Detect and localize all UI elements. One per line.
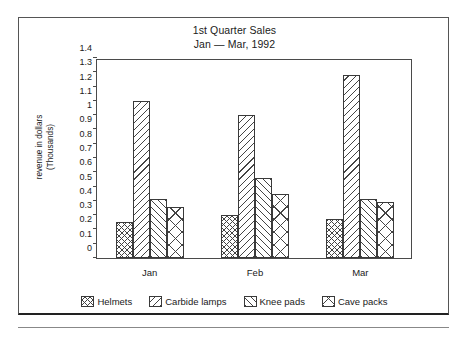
legend-item[interactable]: Carbide lamps xyxy=(149,296,226,307)
y-axis-tick-label: 1.2 xyxy=(52,72,97,82)
bar xyxy=(326,219,343,258)
y-axis-tick-mark xyxy=(93,100,97,101)
legend-item[interactable]: Cave packs xyxy=(322,296,388,307)
legend-label: Helmets xyxy=(97,296,132,307)
y-axis-tick-label: 1 xyxy=(52,100,97,110)
y-axis-tick-label: 0.3 xyxy=(52,200,97,210)
legend-label: Cave packs xyxy=(338,296,388,307)
bar xyxy=(116,222,133,258)
bar xyxy=(133,101,150,258)
y-axis-tick-label: 0.2 xyxy=(52,214,97,224)
legend-swatch-icon xyxy=(244,296,257,307)
y-axis-tick-mark xyxy=(93,86,97,87)
y-axis-tick-label: 0.1 xyxy=(52,229,97,239)
y-axis-title-line1: revenue in dollars xyxy=(34,77,45,217)
y-axis-tick-mark xyxy=(93,71,97,72)
legend-item[interactable]: Knee pads xyxy=(244,296,305,307)
y-axis-tick-label: 0.4 xyxy=(52,186,97,196)
bar xyxy=(343,75,360,258)
y-axis-tick-label: 0.8 xyxy=(52,129,97,139)
y-axis-tick-mark xyxy=(93,186,97,187)
y-axis-tick-mark xyxy=(93,200,97,201)
y-axis-tick-mark xyxy=(93,114,97,115)
legend-swatch-icon xyxy=(81,296,94,307)
y-axis-tick-mark xyxy=(93,157,97,158)
y-axis-tick-label: 0.7 xyxy=(52,143,97,153)
y-axis-tick-label: 1.4 xyxy=(52,43,97,53)
y-axis-tick-label: 0.9 xyxy=(52,114,97,124)
legend-label: Knee pads xyxy=(260,296,305,307)
bar xyxy=(377,202,394,258)
y-axis-tick-mark xyxy=(93,128,97,129)
plot-area: 00.10.20.30.40.50.60.70.80.911.11.21.31.… xyxy=(96,59,412,259)
y-axis-tick-label: 0 xyxy=(52,243,97,253)
chart-figure-frame: 1st Quarter Sales Jan — Mar, 1992 revenu… xyxy=(18,17,449,315)
bar xyxy=(272,194,289,258)
bar xyxy=(255,178,272,258)
legend-item[interactable]: Helmets xyxy=(81,296,132,307)
y-axis-tick-mark xyxy=(93,214,97,215)
x-axis-tick-label: Jan xyxy=(142,267,157,278)
y-axis-tick-label: 0.6 xyxy=(52,157,97,167)
bar xyxy=(150,199,167,258)
bar xyxy=(360,199,377,258)
y-axis-tick-mark xyxy=(93,228,97,229)
bar xyxy=(221,215,238,258)
y-axis-tick-label: 0.5 xyxy=(52,172,97,182)
legend-label: Carbide lamps xyxy=(165,296,226,307)
page-divider-rule xyxy=(18,327,449,328)
chart-legend: HelmetsCarbide lampsKnee padsCave packs xyxy=(19,296,450,307)
y-axis-tick-mark xyxy=(93,57,97,58)
y-axis-tick-mark xyxy=(93,257,97,258)
y-axis-tick-label: 1.3 xyxy=(52,57,97,67)
y-axis-tick-mark xyxy=(93,243,97,244)
legend-swatch-icon xyxy=(149,296,162,307)
y-axis-tick-mark xyxy=(93,171,97,172)
chart-title: 1st Quarter Sales xyxy=(19,23,450,37)
y-axis-tick-mark xyxy=(93,143,97,144)
legend-swatch-icon xyxy=(322,296,335,307)
y-axis-tick-label: 1.1 xyxy=(52,86,97,96)
x-axis-tick-label: Mar xyxy=(352,267,368,278)
bar xyxy=(167,207,184,258)
x-axis-tick-label: Feb xyxy=(247,267,263,278)
bar xyxy=(238,115,255,258)
